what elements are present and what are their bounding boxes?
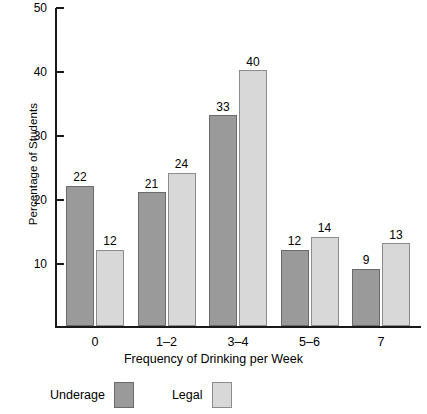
bar-underage-56 xyxy=(281,250,309,327)
legend-item-underage: Underage xyxy=(50,382,134,408)
legend-item-legal: Legal xyxy=(172,382,232,408)
legend-label: Underage xyxy=(50,388,105,402)
bar-value-label: 40 xyxy=(229,56,277,68)
bar-value-label: 13 xyxy=(372,229,420,241)
y-axis-tick-label: 50 xyxy=(17,2,47,14)
bar-value-label: 12 xyxy=(86,235,134,247)
bars-layer: 2212212433401214913 xyxy=(55,8,421,328)
x-axis-tick-label: 7 xyxy=(351,336,411,349)
y-axis-tick-label: 30 xyxy=(17,130,47,142)
legend-label: Legal xyxy=(172,388,203,402)
bar-value-label: 22 xyxy=(56,171,104,183)
x-axis-tick-label: 1–2 xyxy=(137,336,197,349)
bar-underage-7 xyxy=(352,269,380,327)
bar-chart: Percentage of Students 1020304050 221221… xyxy=(0,0,427,414)
x-axis-tick-label: 3–4 xyxy=(208,336,268,349)
bar-underage-0 xyxy=(66,186,94,327)
legend-swatch-legal xyxy=(212,382,232,408)
y-axis-tick-label: 40 xyxy=(17,66,47,78)
y-axis-tick-label: 20 xyxy=(17,194,47,206)
bar-underage-34 xyxy=(209,115,237,326)
bar-value-label: 24 xyxy=(158,158,206,170)
legend-swatch-underage xyxy=(114,382,134,408)
bar-value-label: 14 xyxy=(301,222,349,234)
bar-legal-56 xyxy=(311,237,339,327)
bar-legal-0 xyxy=(96,250,124,327)
chart-legend: UnderageLegal xyxy=(50,382,232,408)
y-axis-title: Percentage of Students xyxy=(27,64,39,264)
bar-legal-7 xyxy=(382,243,410,326)
plot-area: 2212212433401214913 xyxy=(55,8,421,328)
bar-underage-12 xyxy=(138,192,166,326)
y-axis-tick-label: 10 xyxy=(17,258,47,270)
x-axis-tick-label: 0 xyxy=(65,336,125,349)
bar-legal-12 xyxy=(168,173,196,327)
x-axis-tick-label: 5–6 xyxy=(280,336,340,349)
bar-legal-34 xyxy=(239,70,267,326)
x-axis-title: Frequency of Drinking per Week xyxy=(0,352,427,366)
